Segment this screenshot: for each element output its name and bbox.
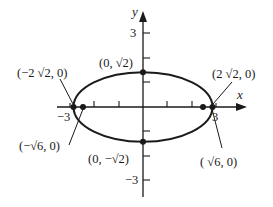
right-focus-label: ( √6, 0) <box>200 155 237 169</box>
y-tick-label-3: 3 <box>130 26 136 40</box>
left-vertex-point <box>71 104 77 110</box>
right-focus-point <box>200 104 206 110</box>
bottom-covertex-label: (0, −√2) <box>88 152 129 166</box>
bottom-covertex-point <box>140 139 146 145</box>
top-covertex-point <box>140 69 146 75</box>
y-tick-label-neg3: −3 <box>125 173 138 187</box>
leader-lines <box>60 79 232 148</box>
x-tick-label-neg3: −3 <box>57 110 70 124</box>
right-vertex-label: (2 √2, 0) <box>212 67 255 81</box>
x-tick-label-3: 3 <box>212 110 218 124</box>
y-axis-arrow-icon <box>139 11 147 22</box>
y-axis-label: y <box>130 4 138 19</box>
left-vertex-label: (−2 √2, 0) <box>17 66 67 80</box>
x-axis-label: x <box>236 87 243 102</box>
x-axis-arrow-icon <box>236 103 247 111</box>
left-focus-label: (−√6, 0) <box>19 139 60 153</box>
ellipse-diagram: y x 3 −3 −3 3 (−2 √2, 0) (0, √2) (2 √2, … <box>0 0 273 207</box>
top-covertex-label: (0, √2) <box>99 56 133 70</box>
